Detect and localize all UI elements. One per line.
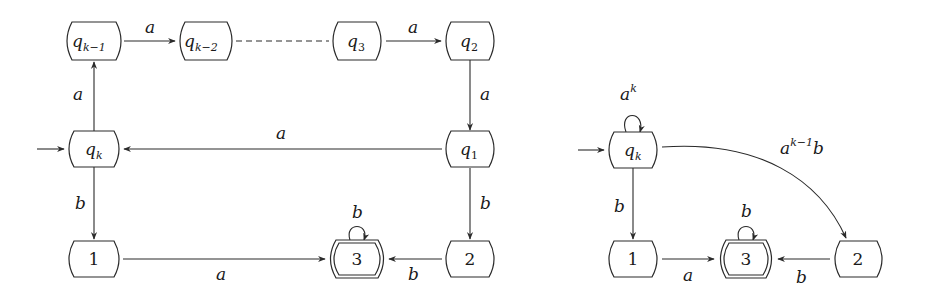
loop-3-right: [738, 227, 754, 241]
edge-label-qk-1-right: b: [614, 196, 625, 216]
edge-label-q1-qk: a: [276, 123, 286, 143]
edge-label-loop-3-right: b: [741, 201, 752, 221]
edge-label-qk-1: b: [75, 193, 86, 213]
automata-diagram: qk−1 qk−2 q3 q2 qk q1 1 3 2 a a a a a b …: [0, 0, 927, 301]
label-state-2-right: 2: [853, 249, 864, 269]
edge-label-q1-2: b: [480, 193, 491, 213]
left-automaton: qk−1 qk−2 q3 q2 qk q1 1 3 2 a a a a a b …: [37, 17, 494, 284]
edge-label-2-3-right: b: [796, 267, 807, 287]
edge-label-q3-q2: a: [408, 17, 418, 37]
edge-label-loop-3: b: [352, 202, 363, 222]
loop-qk-right: [625, 116, 641, 133]
edge-qk-2-right: [662, 146, 846, 238]
loop-3: [349, 227, 365, 241]
label-state-1-right: 1: [628, 249, 639, 269]
edge-label-q2-q1: a: [480, 84, 490, 104]
edge-label-qk-qk1: a: [73, 84, 83, 104]
edge-label-loop-qk-right: ak: [620, 82, 637, 104]
edge-label-1-3-right: a: [683, 265, 693, 285]
right-automaton: qk 1 3 2 ak ak−1b b a b b: [578, 82, 882, 287]
label-state-3: 3: [352, 249, 363, 269]
label-state-3-right: 3: [741, 249, 752, 269]
label-state-1: 1: [89, 249, 100, 269]
edge-label-1-3: a: [216, 264, 226, 284]
label-state-2: 2: [465, 249, 476, 269]
edge-label-2-3: b: [408, 264, 419, 284]
edge-label-qk-2-right: ak−1b: [780, 136, 824, 158]
edge-label-qk1-qk2: a: [145, 17, 155, 37]
